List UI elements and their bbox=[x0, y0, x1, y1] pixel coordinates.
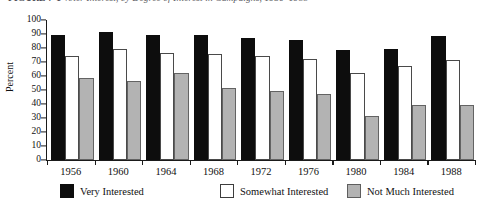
bar-notmuch bbox=[174, 73, 188, 160]
bar-notmuch bbox=[317, 94, 331, 160]
figure-caption-text: Voter Interest, by Degree of Interest in… bbox=[63, 0, 308, 3]
bar-notmuch bbox=[365, 116, 379, 160]
legend-swatch-icon bbox=[220, 184, 234, 198]
bar-very bbox=[241, 38, 255, 160]
bar-group bbox=[431, 20, 472, 160]
bar-notmuch bbox=[79, 78, 93, 160]
chart-legend: Very InterestedSomewhat InterestedNot Mu… bbox=[0, 184, 485, 204]
x-axis-tick-label: 1980 bbox=[346, 166, 367, 177]
bar-notmuch bbox=[270, 91, 284, 160]
bar-group bbox=[99, 20, 140, 160]
bar-very bbox=[99, 32, 113, 160]
bar-somewhat bbox=[208, 54, 222, 160]
bar-somewhat bbox=[303, 59, 317, 160]
x-axis-tick-mark bbox=[332, 160, 333, 165]
x-axis-tick-mark bbox=[475, 160, 476, 165]
x-axis-tick-label: 1960 bbox=[108, 166, 129, 177]
bar-very bbox=[384, 49, 398, 160]
y-axis-label: Percent bbox=[4, 62, 15, 92]
bar-notmuch bbox=[222, 88, 236, 160]
figure-caption: FIGURE 7-1 Voter Interest, by Degree of … bbox=[0, 0, 485, 7]
bar-group bbox=[146, 20, 187, 160]
plot-area: 0102030405060708090100 bbox=[46, 20, 474, 160]
legend-label: Very Interested bbox=[80, 186, 144, 197]
bar-very bbox=[51, 35, 65, 160]
bar-somewhat bbox=[65, 56, 79, 160]
bar-somewhat bbox=[160, 53, 174, 160]
y-axis-tick-mark bbox=[41, 47, 46, 48]
bar-notmuch bbox=[127, 81, 141, 160]
y-axis-tick-mark bbox=[41, 145, 46, 146]
bar-group bbox=[194, 20, 235, 160]
legend-swatch-icon bbox=[60, 184, 74, 198]
x-axis-tick-mark bbox=[190, 160, 191, 165]
x-axis-tick-label: 1968 bbox=[203, 166, 224, 177]
x-axis-tick-mark bbox=[285, 160, 286, 165]
y-axis-tick-mark bbox=[41, 19, 46, 20]
bar-group bbox=[241, 20, 282, 160]
x-axis-line bbox=[46, 160, 475, 161]
bar-very bbox=[431, 36, 445, 160]
bar-very bbox=[194, 35, 208, 160]
bar-very bbox=[146, 35, 160, 160]
bar-somewhat bbox=[398, 66, 412, 160]
bar-notmuch bbox=[460, 105, 474, 160]
y-axis-tick-mark bbox=[41, 33, 46, 34]
x-axis-tick-label: 1956 bbox=[60, 166, 81, 177]
bar-group bbox=[51, 20, 92, 160]
x-axis-tick-label: 1964 bbox=[155, 166, 176, 177]
y-axis-tick-mark bbox=[41, 131, 46, 132]
bar-group bbox=[384, 20, 425, 160]
x-axis-tick-mark bbox=[237, 160, 238, 165]
legend-label: Somewhat Interested bbox=[240, 186, 328, 197]
legend-item-somewhat[interactable]: Somewhat Interested bbox=[220, 184, 328, 198]
y-axis-tick-mark bbox=[41, 103, 46, 104]
bar-group bbox=[336, 20, 377, 160]
x-axis-tick-mark bbox=[142, 160, 143, 165]
bar-very bbox=[336, 50, 350, 160]
bar-somewhat bbox=[113, 49, 127, 160]
legend-item-notmuch[interactable]: Not Much Interested bbox=[347, 184, 454, 198]
bar-very bbox=[289, 40, 303, 160]
x-axis-tick-label: 1988 bbox=[441, 166, 462, 177]
figure-container: FIGURE 7-1 Voter Interest, by Degree of … bbox=[0, 0, 485, 210]
bar-group bbox=[289, 20, 330, 160]
bar-somewhat bbox=[446, 60, 460, 160]
x-axis-tick-mark bbox=[95, 160, 96, 165]
y-axis-tick-mark bbox=[41, 61, 46, 62]
x-axis-tick-mark bbox=[427, 160, 428, 165]
x-axis-tick-mark bbox=[380, 160, 381, 165]
y-axis-tick-mark bbox=[41, 89, 46, 90]
legend-swatch-icon bbox=[347, 184, 361, 198]
x-axis-tick-label: 1984 bbox=[393, 166, 414, 177]
y-axis-tick-mark bbox=[41, 117, 46, 118]
x-axis-tick-label: 1976 bbox=[298, 166, 319, 177]
y-axis-tick-mark bbox=[41, 75, 46, 76]
legend-item-very[interactable]: Very Interested bbox=[60, 184, 144, 198]
bar-somewhat bbox=[255, 56, 269, 160]
y-axis-tick-mark bbox=[41, 159, 46, 160]
bar-somewhat bbox=[350, 73, 364, 160]
x-axis-tick-label: 1972 bbox=[251, 166, 272, 177]
figure-caption-number: FIGURE 7-1 bbox=[8, 0, 61, 3]
x-axis-tick-mark bbox=[47, 160, 48, 165]
bar-notmuch bbox=[412, 105, 426, 160]
legend-label: Not Much Interested bbox=[367, 186, 454, 197]
